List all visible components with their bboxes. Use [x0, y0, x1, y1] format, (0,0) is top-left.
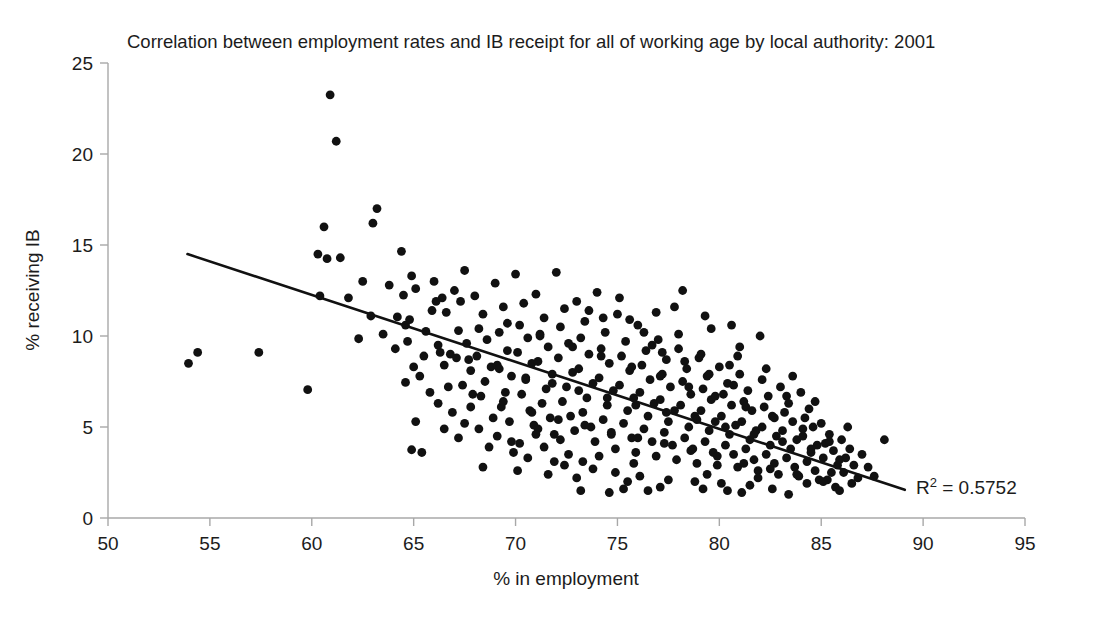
data-point	[754, 474, 763, 483]
data-point	[444, 383, 453, 392]
data-point	[780, 408, 789, 417]
data-point	[638, 361, 647, 370]
data-point	[336, 253, 345, 262]
data-point	[491, 279, 500, 288]
data-point	[864, 463, 873, 472]
data-point	[456, 297, 465, 306]
data-point	[313, 250, 322, 259]
data-point	[523, 333, 532, 342]
y-tick-label: 5	[82, 417, 93, 438]
data-point	[788, 417, 797, 426]
data-point	[762, 364, 771, 373]
data-point	[746, 481, 755, 490]
data-point	[660, 439, 669, 448]
data-point	[466, 403, 475, 412]
data-point	[448, 408, 457, 417]
data-point	[607, 428, 616, 437]
data-point	[560, 461, 569, 470]
y-tick-label: 15	[72, 235, 93, 256]
data-point	[454, 434, 463, 443]
data-point	[707, 324, 716, 333]
data-point	[676, 401, 685, 410]
data-point	[762, 450, 771, 459]
data-point	[631, 448, 640, 457]
data-point	[409, 363, 418, 372]
data-point	[536, 332, 545, 341]
data-point	[656, 483, 665, 492]
data-point	[670, 302, 679, 311]
data-point	[615, 293, 624, 302]
data-point	[629, 459, 638, 468]
x-tick-label: 85	[811, 533, 832, 554]
data-point	[442, 308, 451, 317]
data-point	[485, 443, 494, 452]
data-point	[564, 450, 573, 459]
data-point	[554, 353, 563, 362]
data-point	[811, 397, 820, 406]
data-point	[417, 448, 426, 457]
data-point	[597, 352, 606, 361]
data-point	[635, 388, 644, 397]
y-tick-label: 10	[72, 326, 93, 347]
data-point	[656, 372, 665, 381]
data-point	[729, 450, 738, 459]
data-point	[521, 373, 530, 382]
data-point	[605, 359, 614, 368]
data-point	[880, 435, 889, 444]
data-point	[405, 315, 414, 324]
data-point	[454, 326, 463, 335]
data-point	[572, 297, 581, 306]
data-point	[572, 474, 581, 483]
data-point	[711, 392, 720, 401]
data-point	[697, 406, 706, 415]
data-point	[782, 392, 791, 401]
y-tick-label: 25	[72, 53, 93, 74]
data-point	[552, 268, 561, 277]
data-point	[320, 222, 329, 231]
data-point	[323, 254, 332, 263]
data-point	[503, 346, 512, 355]
data-point	[633, 321, 642, 330]
data-point	[574, 386, 583, 395]
data-point	[666, 383, 675, 392]
data-point	[358, 277, 367, 286]
data-point	[403, 337, 412, 346]
data-point	[483, 335, 492, 344]
data-point	[664, 417, 673, 426]
data-point	[481, 377, 490, 386]
data-point	[693, 459, 702, 468]
data-point	[721, 441, 730, 450]
data-point	[513, 466, 522, 475]
data-point	[623, 406, 632, 415]
data-point	[407, 272, 416, 281]
x-tick-label: 80	[709, 533, 730, 554]
data-point	[501, 388, 510, 397]
data-point	[725, 361, 734, 370]
data-point	[499, 302, 508, 311]
chart-title: Correlation between employment rates and…	[127, 31, 935, 52]
data-point	[460, 266, 469, 275]
data-point	[566, 412, 575, 421]
data-point	[326, 90, 335, 99]
data-point	[507, 437, 516, 446]
data-point	[599, 313, 608, 322]
data-point	[635, 472, 644, 481]
x-tick-label: 60	[301, 533, 322, 554]
data-point	[562, 383, 571, 392]
x-tick-label: 95	[1014, 533, 1035, 554]
data-point	[617, 352, 626, 361]
data-points	[184, 90, 889, 498]
data-point	[845, 444, 854, 453]
data-point	[723, 486, 732, 495]
data-point	[474, 324, 483, 333]
data-point	[595, 452, 604, 461]
data-point	[470, 292, 479, 301]
x-axis-ticks: 50556065707580859095	[97, 518, 1035, 554]
data-point	[369, 219, 378, 228]
data-point	[576, 333, 585, 342]
data-point	[523, 454, 532, 463]
data-point	[778, 437, 787, 446]
data-point	[517, 390, 526, 399]
data-point	[540, 313, 549, 322]
data-point	[576, 486, 585, 495]
